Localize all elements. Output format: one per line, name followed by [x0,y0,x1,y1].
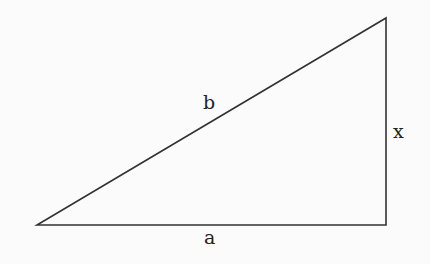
label-vertical-side: x [393,122,404,141]
right-triangle [37,18,386,225]
triangle-figure [0,0,430,264]
label-hypotenuse: b [203,93,215,112]
label-base: a [204,228,215,247]
